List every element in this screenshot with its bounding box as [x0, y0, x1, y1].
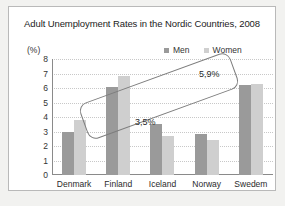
- y-axis-tick-label: 3: [43, 127, 48, 136]
- bar-finland-women: [118, 76, 130, 175]
- y-axis-label: (%): [27, 45, 40, 55]
- annotation-iceland-men: 3,5%: [135, 117, 156, 127]
- y-axis-tick-label: 2: [43, 142, 48, 151]
- x-axis-tick-label: Norway: [185, 179, 229, 189]
- bar-group: [229, 59, 273, 175]
- y-axis-tick-label: 5: [43, 98, 48, 107]
- y-axis-tick-label: 0: [43, 171, 48, 180]
- bar-iceland-men: [150, 124, 162, 175]
- bar-swedem-women: [251, 84, 263, 175]
- bar-group: [96, 59, 140, 175]
- bar-iceland-women: [162, 136, 174, 175]
- bar-denmark-men: [62, 132, 74, 176]
- bar-group: [52, 59, 96, 175]
- annotation-sweden-average: 5,9%: [199, 69, 220, 79]
- y-axis-tick-label: 8: [43, 55, 48, 64]
- x-axis-tick-label: Denmark: [52, 179, 96, 189]
- legend-item-men: Men: [164, 45, 190, 55]
- bar-finland-men: [106, 87, 118, 175]
- chart-figure: Adult Unemployment Rates in the Nordic C…: [0, 0, 285, 206]
- y-axis-tick-label: 6: [43, 84, 48, 93]
- legend-swatch-women: [204, 48, 209, 53]
- chart-panel: Adult Unemployment Rates in the Nordic C…: [8, 6, 276, 191]
- bar-norway-men: [195, 134, 207, 175]
- legend-label-women: Women: [213, 45, 242, 55]
- x-axis-tick-label: Iceland: [140, 179, 184, 189]
- y-axis-tick-label: 4: [43, 113, 48, 122]
- y-axis-tick-label: 1: [43, 156, 48, 165]
- y-axis-tick-label: 7: [43, 69, 48, 78]
- legend-swatch-men: [164, 48, 169, 53]
- x-axis-tick-label: Swedem: [229, 179, 273, 189]
- legend-label-men: Men: [173, 45, 190, 55]
- x-axis-tick-label: Finland: [96, 179, 140, 189]
- plot-area: 876543210 DenmarkFinlandIcelandNorwaySwe…: [52, 59, 273, 175]
- chart-title: Adult Unemployment Rates in the Nordic C…: [9, 18, 275, 29]
- legend-item-women: Women: [204, 45, 242, 55]
- chart-legend: Men Women: [164, 45, 242, 55]
- bar-norway-women: [207, 140, 219, 175]
- bar-swedem-men: [239, 85, 251, 175]
- bar-denmark-women: [74, 120, 86, 175]
